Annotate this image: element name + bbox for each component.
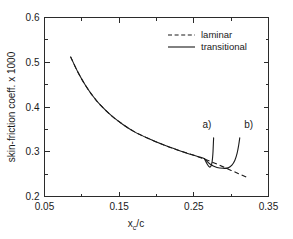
y-tick-label: 0.2 [26,191,40,202]
svg-text:xc/c: xc/c [128,218,144,231]
annotation-b: b) [244,119,253,130]
x-tick-label: 0.05 [35,201,55,212]
x-axis-title: xc/c [128,218,144,231]
y-tick-label: 0.5 [26,57,40,68]
y-tick-label: 0.6 [26,12,40,23]
legend-label-laminar: laminar [201,29,232,40]
legend-label-transitional: transitional [201,41,247,52]
y-tick-label: 0.4 [26,102,40,113]
annotation-a: a) [202,119,211,130]
y-axis-title: skin-friction coeff. x 1000 [6,51,17,162]
x-axis-title-tail: /c [136,218,144,229]
y-axis-title-text: skin-friction coeff. x 1000 [6,51,17,162]
chart-figure: 0.050.150.250.35 0.20.30.40.50.6 xc/c sk… [0,0,293,239]
x-tick-label: 0.25 [184,201,204,212]
x-tick-label: 0.15 [109,201,129,212]
skin-friction-chart: 0.050.150.250.35 0.20.30.40.50.6 xc/c sk… [0,0,293,239]
x-tick-label: 0.35 [259,201,279,212]
y-tick-label: 0.3 [26,146,40,157]
